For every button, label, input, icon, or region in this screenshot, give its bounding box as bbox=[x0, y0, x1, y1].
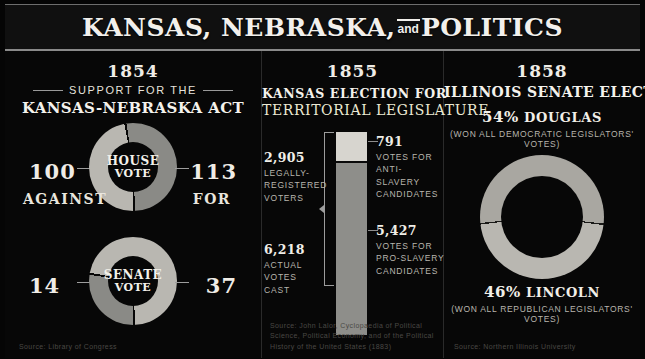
infographic-root: KANSAS, NEBRASKA,andPOLITICS 1854 SUPPOR… bbox=[0, 0, 645, 359]
left-subtitle: SUPPORT FOR THE bbox=[69, 84, 197, 96]
senate-vote-chart: 14 SENATE VOTE 37 bbox=[5, 237, 261, 333]
panels-container: 1854 SUPPORT FOR THE KANSAS-NEBRASKA ACT… bbox=[5, 51, 640, 358]
senate-right-tick bbox=[175, 282, 189, 283]
rule-left bbox=[33, 90, 63, 91]
title-bar: KANSAS, NEBRASKA,andPOLITICS bbox=[5, 4, 640, 51]
title-part-2: POLITICS bbox=[421, 13, 563, 42]
house-center-line1: HOUSE bbox=[107, 155, 160, 168]
illinois-donut-center bbox=[501, 176, 583, 258]
against-label: AGAINST bbox=[23, 191, 107, 207]
right-year: 1858 bbox=[444, 61, 640, 81]
registered-voters-text: LEGALLY-REGISTERED VOTERS bbox=[264, 167, 322, 204]
anti-slavery-label: 791 VOTES FOR ANTI-SLAVERY CANDIDATES bbox=[376, 134, 446, 200]
panel-1858-illinois-senate-election: 1858 ILLINOIS SENATE ELECTION 54% DOUGLA… bbox=[444, 51, 640, 358]
pro-slavery-label: 5,427 VOTES FOR PRO-SLAVERY CANDIDATES bbox=[376, 223, 446, 277]
right-heading: ILLINOIS SENATE ELECTION bbox=[444, 84, 640, 100]
kansas-election-bar-chart: 2,905 LEGALLY-REGISTERED VOTERS 6,218 AC… bbox=[262, 126, 443, 338]
rule-right bbox=[203, 90, 233, 91]
senate-center-line2: VOTE bbox=[115, 282, 152, 294]
douglas-pct: 54% bbox=[482, 108, 519, 126]
mid-source: Source: John Lalor, Cyclopaedia of Polit… bbox=[270, 321, 442, 353]
senate-donut-center: SENATE VOTE bbox=[108, 256, 158, 306]
left-heading: KANSAS-NEBRASKA ACT bbox=[5, 99, 261, 117]
illinois-senate-chart bbox=[444, 153, 640, 281]
illinois-donut bbox=[480, 155, 604, 279]
registered-voters-value: 2,905 bbox=[264, 150, 322, 165]
mid-heading-line1: KANSAS ELECTION FOR bbox=[262, 86, 443, 101]
mid-year: 1855 bbox=[262, 61, 443, 81]
votes-stacked-bar bbox=[336, 132, 367, 335]
douglas-note: (WON ALL DEMOCRATIC LEGISLATORS' VOTES) bbox=[444, 129, 640, 149]
panel-1854-kansas-nebraska-act: 1854 SUPPORT FOR THE KANSAS-NEBRASKA ACT… bbox=[5, 51, 261, 358]
panel-1855-kansas-election: 1855 KANSAS ELECTION FOR TERRITORIAL LEG… bbox=[261, 51, 444, 358]
bar-segment-anti-slavery bbox=[336, 132, 367, 161]
house-donut-center: HOUSE VOTE bbox=[108, 142, 158, 192]
douglas-result: 54% DOUGLAS bbox=[444, 108, 640, 126]
actual-votes-text: ACTUAL VOTES CAST bbox=[264, 259, 322, 296]
mid-heading-line2: TERRITORIAL LEGISLATURE bbox=[262, 102, 443, 118]
right-source: Source: Northern Illinois University bbox=[454, 342, 634, 353]
actual-votes-label: 6,218 ACTUAL VOTES CAST bbox=[264, 242, 322, 296]
lincoln-note: (WON ALL REPUBLICAN LEGISLATORS' VOTES) bbox=[444, 304, 640, 324]
title-part-1: KANSAS, NEBRASKA, bbox=[82, 13, 396, 42]
anti-slavery-value: 791 bbox=[376, 134, 446, 149]
douglas-name: DOUGLAS bbox=[524, 110, 602, 125]
left-source: Source: Library of Congress bbox=[19, 342, 199, 353]
house-vote-chart: 100 HOUSE VOTE 113 AGAINST FOR bbox=[5, 123, 261, 219]
actual-votes-value: 6,218 bbox=[264, 242, 322, 257]
house-for-value: 113 bbox=[190, 159, 237, 184]
lincoln-pct: 46% bbox=[484, 283, 521, 301]
title-and: and bbox=[396, 22, 421, 36]
senate-for-value: 37 bbox=[206, 273, 237, 298]
house-center-line2: VOTE bbox=[115, 168, 152, 180]
bar-segment-pro-slavery bbox=[336, 161, 367, 335]
anti-slavery-text: VOTES FOR ANTI-SLAVERY CANDIDATES bbox=[376, 151, 446, 200]
senate-center-line1: SENATE bbox=[104, 269, 163, 282]
registered-voters-bracket bbox=[324, 132, 334, 286]
house-right-tick bbox=[175, 168, 189, 169]
for-label: FOR bbox=[193, 191, 231, 207]
left-year: 1854 bbox=[5, 61, 261, 81]
senate-donut: SENATE VOTE bbox=[89, 237, 177, 325]
pro-slavery-value: 5,427 bbox=[376, 223, 446, 238]
registered-voters-label: 2,905 LEGALLY-REGISTERED VOTERS bbox=[264, 150, 322, 204]
house-against-value: 100 bbox=[29, 159, 76, 184]
page-title: KANSAS, NEBRASKA,andPOLITICS bbox=[82, 13, 563, 42]
left-subtitle-row: SUPPORT FOR THE bbox=[5, 84, 261, 96]
lincoln-result: 46% LINCOLN bbox=[444, 283, 640, 301]
lincoln-name: LINCOLN bbox=[526, 285, 600, 300]
senate-against-value: 14 bbox=[29, 273, 60, 298]
pro-slavery-text: VOTES FOR PRO-SLAVERY CANDIDATES bbox=[376, 240, 446, 277]
